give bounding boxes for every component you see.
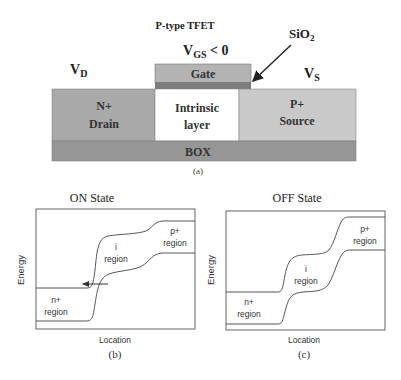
sio2-pointer-arrow-icon xyxy=(253,45,291,81)
structure-title: P-type TFET xyxy=(155,20,214,31)
on-state-ylabel: Energy xyxy=(15,255,26,285)
off-i-region-line2: region xyxy=(294,276,318,286)
on-state-xlabel: Location xyxy=(99,335,131,345)
tfet-figure: P-type TFET VGS < 0 VD VS SiO2 Gate N+ D… xyxy=(0,0,401,380)
source-label-line1: P+ xyxy=(290,97,304,111)
on-p-region-line2: region xyxy=(163,238,187,248)
device-structure: P-type TFET VGS < 0 VD VS SiO2 Gate N+ D… xyxy=(52,20,356,176)
intrinsic-region xyxy=(155,89,239,141)
off-n-region-line2: region xyxy=(237,309,261,319)
caption-a: (a) xyxy=(193,166,203,176)
vgs-label: VGS < 0 xyxy=(183,43,228,60)
drain-label-line1: N+ xyxy=(96,99,112,113)
vd-label: VD xyxy=(70,62,87,79)
off-state-xlabel: Location xyxy=(288,335,320,345)
caption-c: (c) xyxy=(298,348,311,361)
oxide-layer xyxy=(155,82,251,89)
intrinsic-label-line1: Intrinsic xyxy=(175,101,220,115)
off-n-region-line1: n+ xyxy=(244,297,254,307)
on-i-region-line1: i xyxy=(115,242,117,252)
off-state-title: OFF State xyxy=(272,191,321,205)
off-state-ylabel: Energy xyxy=(205,255,216,285)
on-state-title: ON State xyxy=(70,191,114,205)
on-n-region-line1: n+ xyxy=(51,295,61,305)
intrinsic-label-line2: layer xyxy=(184,118,211,132)
source-label-line2: Source xyxy=(279,114,315,128)
drain-label-line2: Drain xyxy=(89,117,119,131)
on-n-region-line2: region xyxy=(44,307,68,317)
on-p-region-line1: p+ xyxy=(170,226,180,236)
on-state-band-diagram: ON State Energy n+ region i region p+ re… xyxy=(15,191,195,361)
off-i-region-line1: i xyxy=(305,264,307,274)
off-p-region-line1: p+ xyxy=(360,224,370,234)
off-p-region-line2: region xyxy=(353,236,377,246)
on-i-region-line2: region xyxy=(104,254,128,264)
caption-b: (b) xyxy=(109,348,122,361)
vs-label: VS xyxy=(304,66,320,83)
gate-label: Gate xyxy=(191,67,216,81)
sio2-label: SiO2 xyxy=(289,26,315,43)
box-label: BOX xyxy=(185,145,211,159)
drain-region xyxy=(52,89,155,141)
off-state-band-diagram: OFF State Energy n+ region i region p+ r… xyxy=(205,191,385,361)
